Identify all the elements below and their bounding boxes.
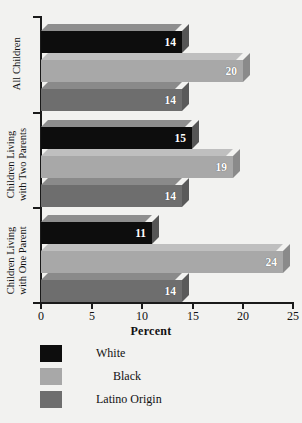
bar-value-label: 14 [165, 185, 177, 207]
legend-item-white[interactable]: White [40, 343, 270, 366]
bar-front-face [41, 185, 182, 207]
chart-container: 0 5 10 15 20 25 Percent All Children Chi… [0, 0, 302, 423]
bar-side-face [152, 215, 159, 244]
bar-one-parent-white[interactable]: 11 [41, 215, 152, 237]
bar-top-face [41, 244, 283, 251]
x-tick-label-15: 15 [181, 309, 205, 323]
x-axis-title: Percent [0, 324, 302, 339]
bar-side-face [182, 82, 189, 111]
bar-one-parent-latino[interactable]: 14 [41, 273, 182, 295]
bar-front-face [41, 127, 192, 149]
category-label-two-parents: Children Living with Two Parents [5, 117, 28, 213]
x-axis-tick [292, 302, 294, 309]
bar-front-face [41, 60, 243, 82]
bar-side-face [182, 24, 189, 53]
x-tick-label-5: 5 [80, 309, 104, 323]
bar-two-parents-black[interactable]: 19 [41, 149, 233, 171]
x-axis-tick [141, 302, 143, 309]
bar-value-label: 24 [266, 251, 278, 273]
bar-value-label: 14 [165, 89, 177, 111]
bar-side-face [182, 273, 189, 302]
bar-value-label: 20 [226, 60, 238, 82]
legend: White Black Latino Origin [40, 343, 270, 412]
x-tick-label-20: 20 [231, 309, 255, 323]
bar-top-face [41, 120, 192, 127]
bar-value-label: 19 [216, 156, 228, 178]
bar-top-face [41, 149, 233, 156]
bar-side-face [182, 178, 189, 207]
y-axis-tick [33, 112, 41, 114]
bar-all-children-white[interactable]: 14 [41, 24, 182, 46]
legend-label: Black [113, 367, 141, 386]
bar-all-children-latino[interactable]: 14 [41, 82, 182, 104]
bar-two-parents-latino[interactable]: 14 [41, 178, 182, 200]
bar-value-label: 15 [175, 127, 187, 149]
bar-side-face [243, 53, 250, 82]
legend-label: White [96, 344, 125, 363]
x-axis-line [40, 302, 294, 304]
bar-side-face [283, 244, 290, 273]
x-tick-label-0: 0 [29, 309, 53, 323]
category-label-line: with One Parent [16, 213, 28, 309]
legend-item-latino-origin[interactable]: Latino Origin [40, 389, 270, 412]
category-label-line: with Two Parents [16, 117, 28, 213]
x-axis-tick [242, 302, 244, 309]
category-label-one-parent: Children Living with One Parent [5, 213, 28, 309]
bar-value-label: 14 [165, 31, 177, 53]
bar-two-parents-white[interactable]: 15 [41, 120, 192, 142]
bar-value-label: 11 [135, 222, 146, 244]
bar-top-face [41, 273, 182, 280]
bar-top-face [41, 178, 182, 185]
x-axis-tick [91, 302, 93, 309]
bar-front-face [41, 251, 283, 273]
category-label-line: Children Living [5, 117, 17, 213]
x-tick-label-25: 25 [281, 309, 302, 323]
bar-all-children-black[interactable]: 20 [41, 53, 243, 75]
y-axis-tick [33, 207, 41, 209]
bar-front-face [41, 89, 182, 111]
bar-side-face [233, 149, 240, 178]
y-axis-tick [33, 16, 41, 18]
x-tick-label-10: 10 [130, 309, 154, 323]
bar-front-face [41, 280, 182, 302]
legend-item-black[interactable]: Black [40, 366, 270, 389]
x-axis-tick [40, 302, 42, 309]
category-label-line: All Children [11, 16, 23, 112]
bar-top-face [41, 24, 182, 31]
plot-area: 14 20 14 15 19 [41, 16, 293, 302]
category-label-line: Children Living [5, 213, 17, 309]
bar-top-face [41, 82, 182, 89]
bar-top-face [41, 53, 243, 60]
bar-top-face [41, 215, 152, 222]
bar-side-face [192, 120, 199, 149]
legend-swatch-icon [40, 368, 62, 385]
category-label-all-children: All Children [11, 16, 23, 112]
legend-label: Latino Origin [96, 390, 162, 409]
legend-swatch-icon [40, 345, 62, 362]
bar-front-face [41, 156, 233, 178]
x-axis-tick [192, 302, 194, 309]
legend-swatch-icon [40, 391, 62, 408]
bar-one-parent-black[interactable]: 24 [41, 244, 283, 266]
bar-value-label: 14 [165, 280, 177, 302]
bar-front-face [41, 31, 182, 53]
